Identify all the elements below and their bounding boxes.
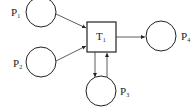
place-p1 (26, 0, 56, 27)
petri-net-diagram: P1 P2 P3 P4 T1 (0, 0, 193, 110)
label-p3: P3 (120, 85, 129, 98)
place-p2 (26, 47, 56, 77)
arc-p2-t1 (56, 46, 86, 61)
place-p3 (86, 76, 116, 106)
label-t1: T1 (96, 30, 106, 43)
label-p2: P2 (13, 57, 22, 70)
label-p1: P1 (11, 6, 20, 19)
label-p4: P4 (181, 30, 190, 43)
arc-p1-t1 (56, 14, 86, 28)
place-p4 (146, 21, 176, 51)
